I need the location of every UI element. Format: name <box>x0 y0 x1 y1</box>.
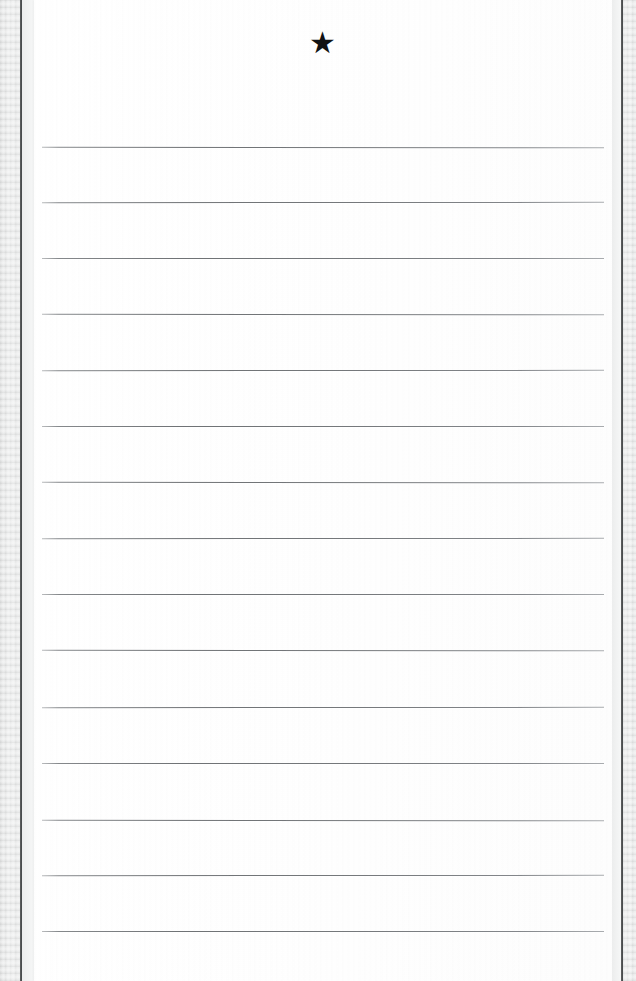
rule-line <box>42 931 604 932</box>
rule-line <box>42 763 604 764</box>
right-edge-texture-strip <box>622 0 636 981</box>
right-spine-rule <box>621 0 623 981</box>
left-edge-texture-strip <box>0 0 21 981</box>
scanned-page: ★ <box>0 0 636 981</box>
rule-line <box>42 426 604 427</box>
right-gutter <box>612 0 621 981</box>
left-gutter <box>22 0 34 981</box>
star-icon: ★ <box>309 28 336 58</box>
rule-line <box>42 594 604 595</box>
rule-line <box>42 258 604 259</box>
